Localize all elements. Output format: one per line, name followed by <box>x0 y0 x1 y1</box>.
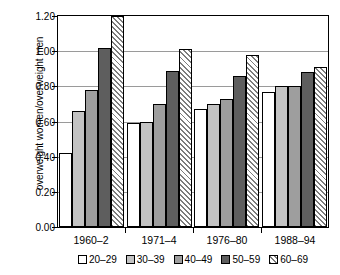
legend-item[interactable]: 20–29 <box>78 254 117 265</box>
y-axis-tick-label: 1.00 <box>9 46 55 57</box>
y-axis-tick-label: 0.60 <box>9 116 55 127</box>
x-axis-tick-mark <box>193 228 194 233</box>
y-axis-tick-label: 1.20 <box>9 11 55 22</box>
legend-swatch <box>78 255 87 264</box>
bar <box>233 76 246 227</box>
legend-label: 30–39 <box>137 254 165 265</box>
legend-swatch <box>174 255 183 264</box>
y-axis-tick-label: 0.40 <box>9 151 55 162</box>
bar-group <box>261 16 329 227</box>
bar <box>98 48 111 227</box>
bar <box>262 92 275 227</box>
x-axis-label: 1971–4 <box>125 234 193 246</box>
legend-item[interactable]: 50–59 <box>221 254 260 265</box>
bar <box>85 90 98 227</box>
bar <box>220 99 233 227</box>
bar-group <box>126 16 194 227</box>
legend-item[interactable]: 60–69 <box>269 254 308 265</box>
bar <box>72 111 85 227</box>
x-axis-label: 1976–80 <box>193 234 261 246</box>
legend-label: 60–69 <box>280 254 308 265</box>
x-axis-label: 1960–2 <box>57 234 125 246</box>
bar <box>314 67 327 227</box>
bar <box>127 123 140 227</box>
bar <box>140 122 153 228</box>
bar <box>179 49 192 227</box>
bar <box>207 104 220 227</box>
bar <box>246 55 259 227</box>
y-axis-tick-label: 0.20 <box>9 186 55 197</box>
chart-legend: 20–2930–3940–4950–5960–69 <box>57 254 329 265</box>
legend-item[interactable]: 40–49 <box>174 254 213 265</box>
x-axis-tick-mark <box>261 228 262 233</box>
y-axis-tick-label: 0.00 <box>9 222 55 233</box>
bar-group <box>58 16 126 227</box>
x-axis-tick-mark <box>125 228 126 233</box>
bar <box>194 109 207 227</box>
bar <box>153 104 166 227</box>
bar-group <box>193 16 261 227</box>
legend-label: 40–49 <box>185 254 213 265</box>
y-axis-tick-label: 0.80 <box>9 81 55 92</box>
legend-swatch <box>269 255 278 264</box>
bar-groups <box>58 16 328 227</box>
bar <box>59 153 72 227</box>
legend-item[interactable]: 30–39 <box>126 254 165 265</box>
legend-label: 50–59 <box>232 254 260 265</box>
legend-swatch <box>221 255 230 264</box>
bar <box>275 86 288 227</box>
bar <box>111 16 124 227</box>
bar <box>166 71 179 227</box>
bar <box>288 86 301 227</box>
legend-swatch <box>126 255 135 264</box>
x-axis-labels: 1960–21971–41976–801988–94 <box>57 234 329 246</box>
x-axis-label: 1988–94 <box>261 234 329 246</box>
bar <box>301 72 314 227</box>
bar-chart: overweight women/overweight men 0.000.20… <box>0 0 340 275</box>
legend-label: 20–29 <box>89 254 117 265</box>
